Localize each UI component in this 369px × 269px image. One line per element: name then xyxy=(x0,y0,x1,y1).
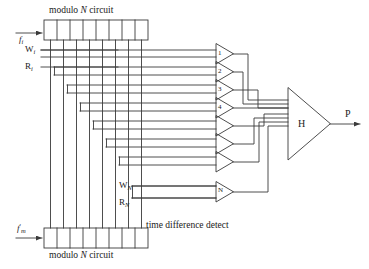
bus-to-gate-6 xyxy=(106,139,216,147)
summing-triangle-h xyxy=(288,88,330,160)
bus-to-gate-2 xyxy=(54,67,216,75)
signal-label-r-n: RN xyxy=(119,197,129,208)
gate-7 xyxy=(216,152,233,172)
gate-label-2: 2 xyxy=(218,67,222,75)
bus-to-gate-7 xyxy=(119,157,216,165)
title-bottom: modulo N circuit xyxy=(49,250,113,260)
bus-to-gate-4 xyxy=(80,103,216,111)
input-label-f-i: fi xyxy=(19,34,23,45)
signal-label-w-n: WN xyxy=(119,180,132,191)
caption-time-difference-detect: time difference detect xyxy=(146,220,229,230)
bus-to-gate-5 xyxy=(93,121,216,129)
register-bottom-outline xyxy=(44,228,148,248)
signal-label-w-i: Wi xyxy=(25,44,35,55)
gate-output-routing xyxy=(233,54,288,192)
gate-5 xyxy=(216,116,233,136)
summing-block-label-h: H xyxy=(298,118,305,129)
bus-to-gate-n xyxy=(132,186,216,198)
signal-label-r-i: Ri xyxy=(25,61,33,72)
gate-label-n: N xyxy=(218,186,223,194)
diagram-canvas: modulo N circuit modulo N circuit time d… xyxy=(0,0,369,269)
title-top: modulo N circuit xyxy=(49,5,113,15)
gate-label-3: 3 xyxy=(218,85,222,93)
gate-6 xyxy=(216,134,233,154)
register-top-outline xyxy=(44,20,148,40)
input-label-f-m-prime: f′m xyxy=(17,222,26,234)
gate-label-4: 4 xyxy=(218,103,222,111)
output-label-p: P xyxy=(345,108,351,119)
bus-risers xyxy=(55,67,133,198)
gate-label-1: 1 xyxy=(218,49,222,57)
